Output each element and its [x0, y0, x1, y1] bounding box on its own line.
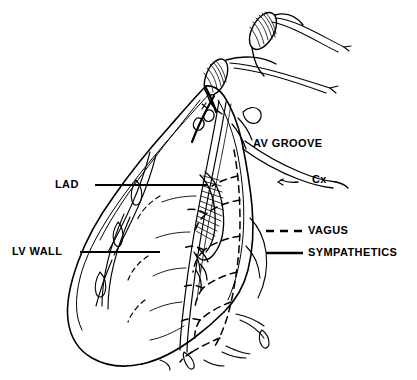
atrial-appendage	[194, 172, 224, 290]
label-cx: Cx	[312, 174, 326, 185]
great-vessels-group	[200, 8, 303, 114]
heart-innervation-drawing	[0, 0, 417, 380]
legend-sample-lines	[266, 231, 303, 253]
label-lv-wall: LV WALL	[12, 246, 62, 257]
aorta-lumen-hatching	[250, 12, 276, 47]
vagal-nerve-network	[180, 150, 240, 362]
heart-left-border	[67, 86, 206, 366]
posterior-vessels	[204, 218, 269, 366]
legend-label-vagus: VAGUS	[308, 225, 348, 236]
pulmonary-artery-cut-end	[200, 56, 276, 114]
sympathetic-fibers-upper	[230, 18, 351, 93]
label-lad: LAD	[55, 179, 79, 190]
heart-inner-contours	[76, 93, 243, 330]
label-av-groove: AV GROOVE	[253, 138, 322, 149]
anatomical-figure: LAD LV WALL AV GROOVE Cx VAGUS SYMPATHET…	[0, 0, 417, 380]
vagal-peripheral-twigs	[128, 196, 160, 322]
legend-label-sympathetics: SYMPATHETICS	[308, 247, 397, 258]
lv-epicardial-vessels	[95, 152, 156, 309]
sympathetic-ganglia	[193, 103, 214, 130]
